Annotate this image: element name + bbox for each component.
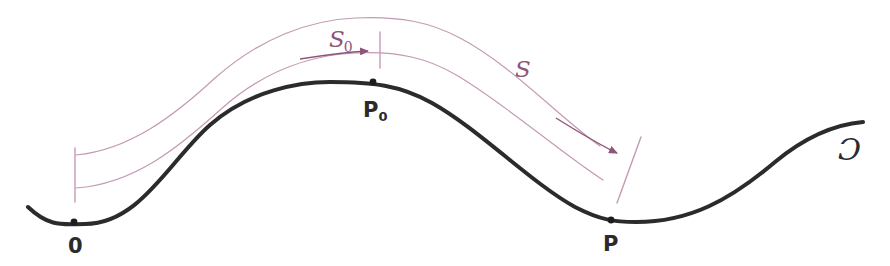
label-arc-s-text: S [515, 56, 531, 82]
label-p-zero-subscript: 0 [378, 109, 387, 124]
diagram-canvas [0, 0, 890, 266]
label-p-zero: P0 [363, 100, 387, 121]
arc-s-tick-mark [617, 137, 641, 203]
label-arc-s: S [515, 58, 531, 81]
point-marker-p0 [370, 79, 377, 86]
label-curve-c: C [838, 133, 861, 163]
label-arc-s-zero-subscript: 0 [344, 39, 353, 55]
label-origin: 0 [68, 236, 83, 257]
point-marker-p [608, 217, 615, 224]
curve-arclength-figure: 0 P0 P S0 S C [0, 0, 890, 266]
label-arc-s-zero-text: S [329, 26, 345, 52]
curve-c-path [28, 82, 863, 224]
label-p-zero-text: P [363, 98, 378, 122]
label-curve-c-text: C [838, 131, 861, 166]
point-marker-origin [71, 219, 78, 226]
label-origin-text: 0 [68, 234, 83, 258]
label-p: P [603, 234, 618, 255]
label-p-text: P [603, 232, 618, 256]
label-arc-s-zero: S0 [329, 28, 354, 51]
